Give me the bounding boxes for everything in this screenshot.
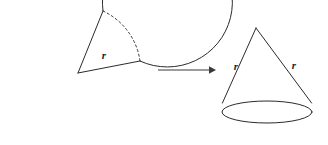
cone: r r xyxy=(222,28,312,123)
sector-edge-lower xyxy=(78,61,140,73)
cone-slant-label-right: r xyxy=(292,59,297,71)
cone-slant-left xyxy=(222,28,256,103)
sector-edge-upper xyxy=(78,11,103,73)
circle-radius-label: r xyxy=(102,49,107,61)
circle-major-arc xyxy=(102,0,232,67)
cone-slant-label-left: r xyxy=(234,60,239,72)
cone-base-ellipse xyxy=(222,101,312,123)
geometry-diagram: r r r xyxy=(0,0,328,145)
cone-slant-right xyxy=(256,28,312,103)
circle-with-sector-removed: r xyxy=(78,0,232,73)
removed-sector-dashed-arc xyxy=(103,11,140,61)
arrow-head-icon xyxy=(209,66,216,74)
diagram-canvas: r r r xyxy=(0,0,328,145)
